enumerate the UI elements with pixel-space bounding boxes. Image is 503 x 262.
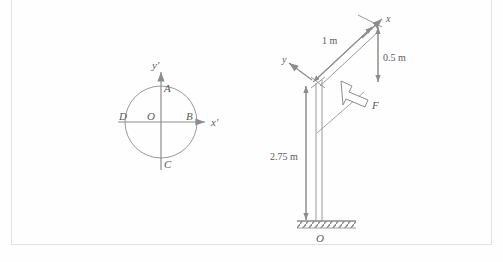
dim-height-label: 2.75 m bbox=[270, 151, 298, 162]
point-label-a: A bbox=[163, 82, 171, 94]
dim-arm-label: 1 m bbox=[322, 35, 338, 46]
force-label-f: F bbox=[371, 99, 379, 111]
point-label-d: D bbox=[118, 110, 127, 122]
figure-root: x′ y′ A B C D O x bbox=[0, 0, 503, 262]
force-arrow-f bbox=[341, 81, 368, 107]
x-prime-axis-label: x′ bbox=[210, 116, 219, 128]
ground-hatching bbox=[297, 221, 356, 228]
x-axis-tick-line bbox=[358, 15, 382, 27]
x-axis-label: x bbox=[385, 13, 391, 24]
y-axis-arrow bbox=[289, 63, 312, 80]
support-label-o: O bbox=[316, 232, 324, 244]
right-pole-diagram: x y 1 m 0.5 m F 2.75 m bbox=[270, 13, 406, 244]
figure-canvas: x′ y′ A B C D O x bbox=[0, 0, 503, 262]
left-circle-diagram: x′ y′ A B C D O bbox=[118, 59, 219, 170]
y-prime-axis-label: y′ bbox=[151, 59, 160, 71]
ground-support bbox=[297, 221, 356, 228]
point-label-o: O bbox=[147, 110, 155, 122]
point-label-b: B bbox=[186, 110, 193, 122]
point-label-c: C bbox=[164, 158, 172, 170]
dim-offset-label: 0.5 m bbox=[383, 52, 406, 63]
y-axis-label: y bbox=[281, 54, 287, 65]
